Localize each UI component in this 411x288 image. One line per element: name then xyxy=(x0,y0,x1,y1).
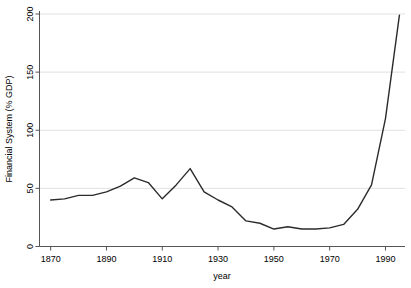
x-tick-label-1950: 1950 xyxy=(264,254,284,264)
y-tick-label-0: 0 xyxy=(25,244,35,249)
y-tick-label-100: 100 xyxy=(25,123,35,138)
chart-background xyxy=(0,0,411,288)
x-tick-label-1910: 1910 xyxy=(152,254,172,264)
x-tick-label-1970: 1970 xyxy=(320,254,340,264)
y-axis-title: Financial System (% GDP) xyxy=(4,75,14,182)
x-tick-label-1890: 1890 xyxy=(96,254,116,264)
x-tick-label-1870: 1870 xyxy=(41,254,61,264)
x-tick-label-1990: 1990 xyxy=(375,254,395,264)
line-chart: 050100150200 187018901910193019501970199… xyxy=(0,0,411,288)
chart-container: 050100150200 187018901910193019501970199… xyxy=(0,0,411,288)
x-tick-label-1930: 1930 xyxy=(208,254,228,264)
y-tick-label-150: 150 xyxy=(25,65,35,80)
y-tick-label-200: 200 xyxy=(25,6,35,21)
y-tick-label-50: 50 xyxy=(25,183,35,193)
x-axis-title: year xyxy=(213,271,231,281)
